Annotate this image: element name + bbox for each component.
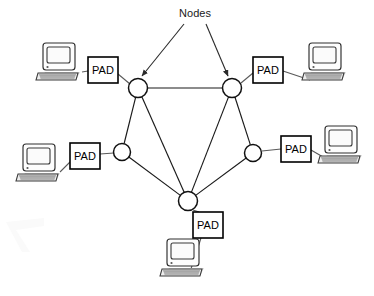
pad-label: PAD (74, 150, 96, 162)
pad-label: PAD (257, 64, 279, 76)
node-top-right[interactable] (223, 79, 242, 98)
connection-node-mid-right-to-pad-mid-right (262, 149, 281, 151)
pad-label: PAD (197, 219, 219, 231)
monitor-power-led (46, 66, 48, 68)
network-links (124, 88, 250, 195)
monitor-power-led (312, 66, 314, 68)
network-link-node-top-left-to-node-mid-left (124, 97, 136, 144)
terminal-bottom (160, 239, 204, 276)
pad-bottom[interactable]: PAD (193, 212, 223, 238)
monitor-screen (313, 47, 336, 63)
connection-pad-mid-left-to-node-mid-left (100, 153, 114, 154)
connection-terminal-mid-left-to-pad-mid-left (60, 162, 70, 172)
computer-icon (160, 239, 204, 276)
terminal-top-left (36, 43, 80, 80)
monitor-power-led (26, 167, 28, 169)
pad-label: PAD (285, 143, 307, 155)
connection-pad-top-left-to-node-top-left (118, 74, 130, 84)
terminal-top-right (302, 43, 346, 80)
network-link-node-mid-right-to-node-bottom (196, 158, 247, 195)
network-diagram-canvas: PADPADPADPADPAD Nodes (0, 0, 374, 296)
monitor-screen (171, 243, 194, 259)
node-top-left[interactable] (129, 79, 148, 98)
arrow-to-top-right-node (206, 24, 228, 76)
monitor-power-led (328, 149, 330, 151)
node-bottom[interactable] (179, 192, 198, 211)
node-mid-right[interactable] (245, 145, 262, 162)
monitor-screen (329, 130, 352, 146)
connection-node-top-right-to-pad-top-right (241, 73, 253, 83)
pad-mid-left[interactable]: PAD (70, 143, 100, 169)
watermark-artifact (6, 218, 44, 252)
computer-icon (318, 126, 362, 163)
monitor-power-led (170, 262, 172, 264)
nodes-label: Nodes (179, 7, 211, 19)
computer-icon (302, 43, 346, 80)
network-link-node-top-right-to-node-mid-right (235, 97, 250, 145)
pad-top-right[interactable]: PAD (253, 57, 283, 83)
node-mid-left[interactable] (114, 144, 131, 161)
monitor-screen (27, 148, 50, 164)
terminal-mid-right (318, 126, 362, 163)
connection-terminal-top-left-to-pad-top-left (82, 71, 88, 72)
arrow-to-top-left-node (142, 24, 184, 76)
network-diagram: PADPADPADPADPAD Nodes (0, 0, 374, 296)
network-link-node-top-left-to-node-bottom (142, 97, 184, 193)
pad-label: PAD (92, 64, 114, 76)
network-link-node-mid-left-to-node-bottom (129, 157, 181, 195)
nodes-annotation: Nodes (142, 7, 228, 76)
network-link-node-top-right-to-node-bottom (191, 97, 228, 192)
terminal-mid-left (16, 144, 60, 181)
computer-icon (16, 144, 60, 181)
pad-top-left[interactable]: PAD (88, 57, 118, 83)
monitor-screen (47, 47, 70, 63)
pad-mid-right[interactable]: PAD (281, 136, 311, 162)
computer-icon (36, 43, 80, 80)
